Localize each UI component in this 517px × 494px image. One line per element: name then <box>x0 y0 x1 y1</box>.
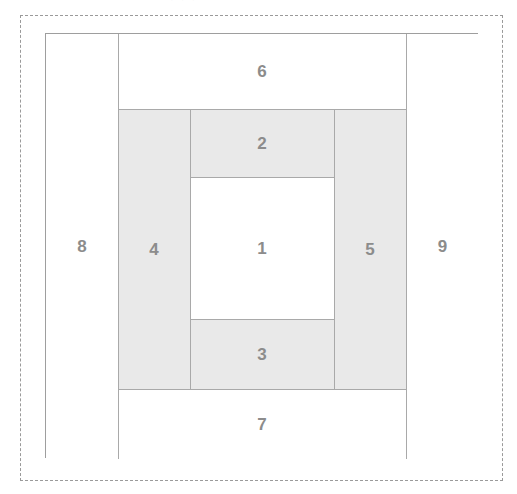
region-5[interactable]: 5 <box>334 109 406 389</box>
region-1[interactable]: 1 <box>190 177 334 319</box>
region-3-label: 3 <box>257 346 266 363</box>
divider-inner-right <box>334 109 335 389</box>
cropped-top-remnant-text: · · · <box>170 0 197 5</box>
region-2-label: 2 <box>257 135 266 152</box>
region-6[interactable]: 6 <box>118 34 406 109</box>
divider-gray-bottom <box>118 389 406 390</box>
region-8-label: 8 <box>77 238 86 255</box>
region-5-label: 5 <box>365 241 374 258</box>
region-9-label: 9 <box>438 238 447 255</box>
figure-canvas: · · · 8 9 6 7 4 5 2 <box>0 0 517 494</box>
divider-left-outer <box>118 34 119 459</box>
region-6-label: 6 <box>257 63 266 80</box>
region-7-label: 7 <box>257 416 266 433</box>
divider-gray-top <box>118 109 406 110</box>
region-8[interactable]: 8 <box>46 34 118 459</box>
divider-center-bottom <box>190 319 334 320</box>
region-3[interactable]: 3 <box>190 319 334 389</box>
diagram-box: 8 9 6 7 4 5 2 3 1 <box>45 33 478 458</box>
divider-inner-left <box>190 109 191 389</box>
region-1-label: 1 <box>257 240 266 257</box>
region-9[interactable]: 9 <box>406 34 479 459</box>
cropped-top-remnant: · · · <box>170 0 350 4</box>
region-2[interactable]: 2 <box>190 109 334 177</box>
region-4-label: 4 <box>149 241 158 258</box>
region-4[interactable]: 4 <box>118 109 190 389</box>
region-7[interactable]: 7 <box>118 389 406 459</box>
divider-right-outer <box>406 34 407 459</box>
divider-center-top <box>190 177 334 178</box>
